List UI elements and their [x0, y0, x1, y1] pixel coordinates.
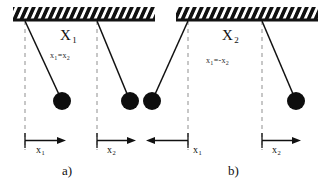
relation-b-rhs-sub: 2	[226, 60, 229, 66]
hatch-pattern-a	[13, 7, 155, 19]
axis-label-b-x1: x1	[193, 144, 202, 155]
arrow-head-b1	[146, 137, 155, 144]
axis-label-b-x2-sub: 2	[277, 149, 281, 156]
panel-a-pendulum-2	[97, 21, 139, 150]
diagram-canvas	[0, 0, 330, 189]
pendulum-bob-b1	[143, 92, 161, 110]
pendulum-string-a2	[97, 21, 130, 101]
pendulum-string-b2	[262, 21, 296, 101]
measure-arrow-a-x2	[97, 133, 136, 148]
relation-label-b: x1=-x2	[206, 56, 229, 65]
mode-label-a-subscript: 1	[71, 35, 77, 45]
panel-b-pendulum-1	[143, 21, 188, 150]
axis-label-b-x1-sub: 1	[198, 149, 202, 156]
pendulum-string-b1	[152, 21, 188, 101]
hatch-pattern-b	[176, 7, 318, 19]
mode-label-a: X1	[60, 27, 77, 44]
pendulum-bob-a1	[53, 92, 71, 110]
pendulum-bob-b2	[287, 92, 305, 110]
ceiling-a	[13, 7, 155, 22]
relation-label-a: x1=x2	[50, 51, 70, 60]
relation-b-lhs-sub: 1	[210, 60, 213, 66]
measure-arrow-a-x1	[25, 133, 66, 148]
axis-label-a-x2-sub: 2	[112, 149, 116, 156]
pendulum-string-a1	[25, 21, 62, 101]
relation-a-lhs-sub: 1	[54, 55, 57, 61]
axis-label-a-x2: x2	[107, 144, 116, 155]
axis-label-a-x1: x1	[36, 144, 45, 155]
ceiling-bar-b	[176, 19, 318, 22]
measure-arrow-b-x1	[146, 133, 188, 148]
axis-label-a-x1-sub: 1	[41, 149, 45, 156]
pendulum-normal-modes-figure: X1 x1=x2 x1 x2 a) X2 x1=-x2 x1 x2 b)	[0, 0, 330, 189]
ceiling-bar-a	[13, 19, 155, 22]
arrow-head-a1	[57, 137, 66, 144]
mode-label-b: X2	[222, 27, 239, 44]
panel-b-pendulum-2	[262, 21, 305, 150]
mode-label-a-text: X	[60, 27, 71, 43]
arrow-head-b2	[292, 137, 301, 144]
relation-a-rhs-sub: 2	[67, 55, 70, 61]
panel-caption-b: b)	[228, 163, 239, 179]
pendulum-bob-a2	[121, 92, 139, 110]
arrow-head-a2	[127, 137, 136, 144]
measure-arrow-b-x2	[262, 133, 301, 148]
mode-label-b-subscript: 2	[233, 35, 239, 45]
ceiling-b	[176, 7, 318, 22]
axis-label-b-x2: x2	[272, 144, 281, 155]
mode-label-b-text: X	[222, 27, 233, 43]
panel-caption-a: a)	[62, 163, 72, 179]
